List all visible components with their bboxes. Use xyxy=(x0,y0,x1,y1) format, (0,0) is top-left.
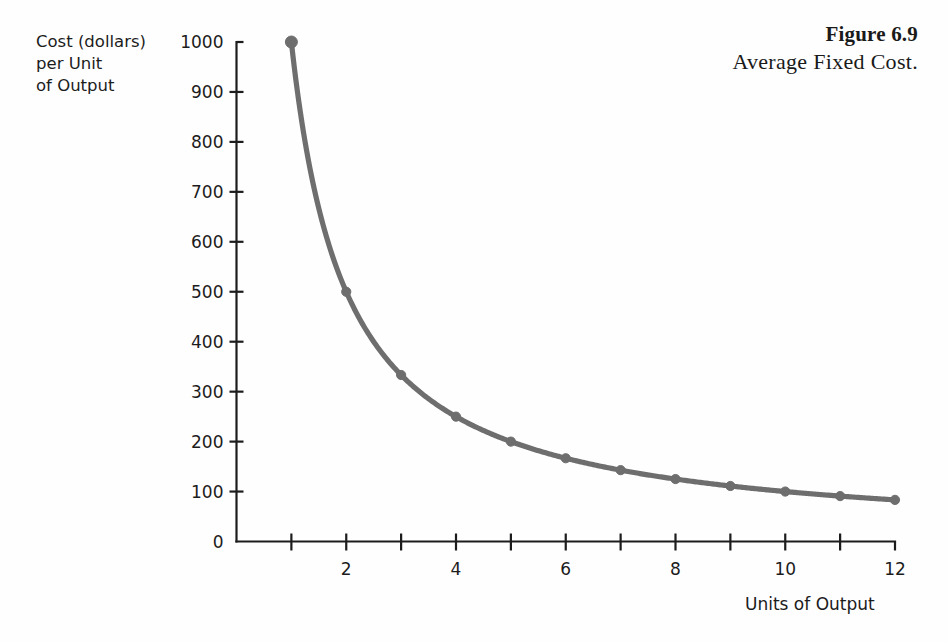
data-point-marker xyxy=(890,495,899,504)
data-point-marker xyxy=(616,466,625,475)
data-point-marker xyxy=(285,36,297,48)
y-tick-label: 1000 xyxy=(180,32,223,52)
x-tick-label: 6 xyxy=(560,559,571,579)
y-tick-label: 900 xyxy=(191,82,223,102)
x-axis: 24681012 xyxy=(237,534,906,579)
afc-curve-path xyxy=(291,42,895,500)
y-tick-label: 200 xyxy=(191,432,223,452)
y-tick-label: 300 xyxy=(191,382,223,402)
data-point-marker xyxy=(671,474,680,483)
y-tick-label: 400 xyxy=(191,332,223,352)
x-axis-title: Units of Output xyxy=(745,594,875,614)
data-point-marker xyxy=(506,437,515,446)
data-point-marker xyxy=(561,454,570,463)
data-point-markers xyxy=(285,36,899,504)
x-tick-label: 12 xyxy=(884,559,906,579)
y-tick-label: 0 xyxy=(213,532,224,552)
y-tick-label: 100 xyxy=(191,482,223,502)
afc-curve xyxy=(291,42,895,500)
chart-plot-area: 01002003004005006007008009001000 2468101… xyxy=(0,0,948,642)
y-tick-label: 700 xyxy=(191,182,223,202)
y-tick-label: 600 xyxy=(191,232,223,252)
x-tick-label: 10 xyxy=(774,559,796,579)
figure-container: Cost (dollars) per Unit of Output Figure… xyxy=(0,0,948,642)
data-point-marker xyxy=(781,487,790,496)
y-tick-label: 800 xyxy=(191,132,223,152)
x-tick-label: 8 xyxy=(670,559,681,579)
y-tick-label: 500 xyxy=(191,282,223,302)
data-point-marker xyxy=(836,491,845,500)
x-tick-label: 4 xyxy=(451,559,462,579)
data-point-marker xyxy=(451,412,460,421)
data-point-marker xyxy=(726,481,735,490)
x-tick-label: 2 xyxy=(341,559,352,579)
y-axis: 01002003004005006007008009001000 xyxy=(180,32,243,552)
data-point-marker xyxy=(397,370,406,379)
data-point-marker xyxy=(342,287,351,296)
